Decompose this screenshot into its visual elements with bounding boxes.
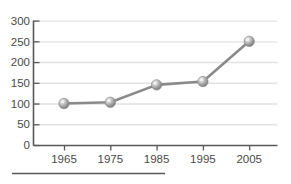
y-tick-label: 150: [11, 77, 30, 89]
data-point-marker: [244, 36, 254, 46]
y-tick-label: 100: [11, 98, 30, 110]
y-tick-label: 50: [17, 118, 30, 130]
y-tick-label: 200: [11, 56, 30, 68]
data-point-marker: [151, 80, 161, 90]
x-tick-label: 1995: [190, 153, 216, 165]
y-tick-label: 300: [11, 15, 30, 27]
x-tick-label: 2005: [236, 153, 262, 165]
x-tick-label: 1965: [51, 153, 77, 165]
line-chart-figure: 050100150200250300 19651975198519952005: [0, 0, 291, 184]
data-point-marker: [105, 97, 115, 107]
data-point-highlight: [154, 82, 157, 85]
chart-canvas: 050100150200250300 19651975198519952005: [0, 0, 291, 184]
y-tick-label: 250: [11, 36, 30, 48]
data-point-marker: [59, 98, 69, 108]
data-point-highlight: [246, 38, 249, 41]
data-point-highlight: [61, 100, 64, 103]
x-tick-label: 1985: [144, 153, 170, 165]
data-point-marker: [198, 76, 208, 86]
y-tick-label: 0: [24, 139, 30, 151]
data-point-highlight: [107, 99, 110, 102]
data-point-highlight: [200, 78, 203, 81]
x-tick-label: 1975: [98, 153, 124, 165]
